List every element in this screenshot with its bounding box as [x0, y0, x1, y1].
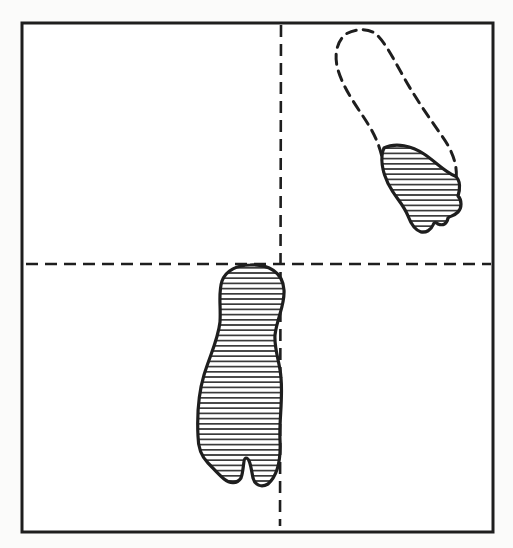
footprint-diagram — [0, 0, 513, 548]
